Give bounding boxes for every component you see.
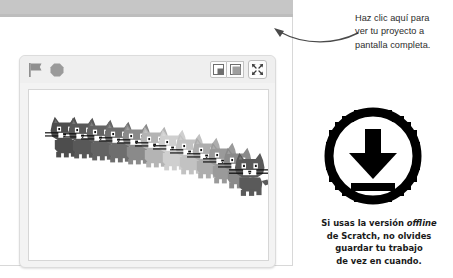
stage-view-controls (210, 60, 267, 79)
download-icon (324, 107, 422, 205)
editor-frame (0, 17, 293, 266)
small-stage-layout-button[interactable] (210, 61, 227, 78)
fullscreen-annotation: Haz clic aquí para ver tu proyecto a pan… (355, 12, 451, 52)
stage-header (20, 56, 275, 83)
fullscreen-annotation-line-2: ver tu proyecto a (355, 25, 451, 38)
normal-stage-layout-button[interactable] (227, 61, 244, 78)
fullscreen-annotation-line-1: Haz clic aquí para (355, 12, 451, 25)
offline-caption: Si usas la versión offline de Scratch, n… (311, 217, 447, 267)
stop-sign-icon[interactable] (50, 63, 64, 77)
offline-caption-line-3: guardar tu trabajo (311, 242, 447, 255)
offline-keyword: offline (407, 218, 437, 228)
offline-caption-line-2: de Scratch, no olvides (311, 230, 447, 243)
stage-canvas[interactable] (28, 89, 269, 261)
fullscreen-button[interactable] (248, 60, 267, 79)
stage-panel (19, 55, 276, 268)
green-flag-icon[interactable] (28, 63, 43, 77)
offline-caption-line-1-pre: Si usas la versión (321, 218, 407, 228)
fullscreen-annotation-line-3: pantalla completa. (355, 39, 451, 52)
cat-sprite-trail (29, 90, 269, 261)
offline-caption-line-4: de vez en cuando. (311, 255, 447, 268)
offline-caption-line-1: Si usas la versión offline (311, 217, 447, 230)
